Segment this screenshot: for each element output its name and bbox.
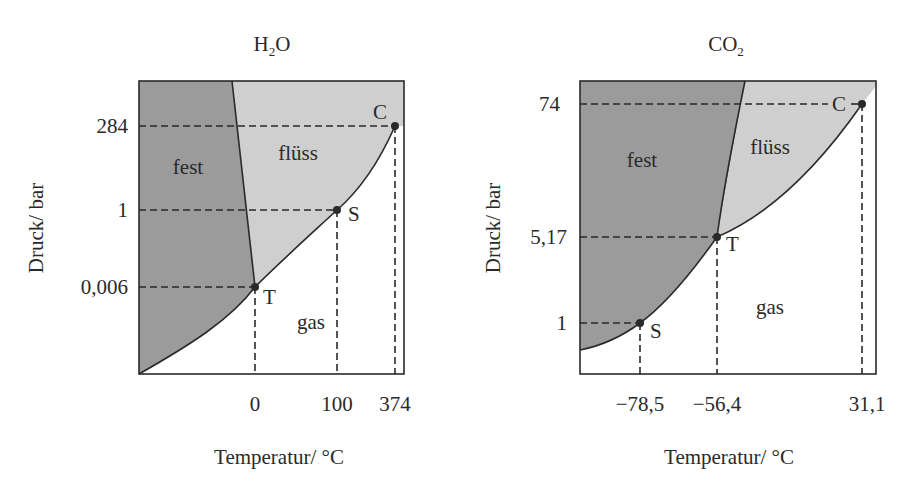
h2o-region-label-liquid: flüss — [278, 141, 318, 165]
co2-y-tick: 1 — [557, 311, 568, 335]
co2-y-tick: 74 — [539, 92, 561, 116]
h2o-point-label-t: T — [263, 285, 276, 309]
co2-point-label-t: T — [726, 232, 739, 256]
h2o-x-tick: 100 — [321, 392, 353, 416]
co2-x-tick: −56,4 — [693, 392, 742, 416]
h2o-x-tick: 0 — [250, 392, 261, 416]
co2-y-tick: 5,17 — [530, 225, 567, 249]
co2-region-label-solid: fest — [627, 148, 657, 172]
co2-x-tick: 31,1 — [849, 392, 886, 416]
h2o-critical-point-marker — [391, 122, 399, 130]
co2-critical-point-marker — [858, 100, 866, 108]
h2o-x-axis-label: Temperatur/ °C — [214, 445, 344, 469]
h2o-y-tick: 1 — [118, 198, 129, 222]
h2o-triple-point-marker — [251, 283, 259, 291]
co2-sublimation-point-marker — [636, 319, 644, 327]
h2o-title: H2O — [254, 32, 291, 59]
h2o-y-tick: 0,006 — [81, 275, 128, 299]
h2o-point-label-s: S — [348, 202, 360, 226]
h2o-region-label-solid: fest — [173, 155, 203, 179]
h2o-point-label-c: C — [373, 100, 387, 124]
co2-point-label-s: S — [650, 319, 662, 343]
phase-diagrams: H2O C S T fest flüss gas — [0, 0, 901, 484]
h2o-diagram: H2O C S T fest flüss gas — [24, 32, 411, 469]
co2-x-tick: −78,5 — [616, 392, 665, 416]
co2-title: CO2 — [708, 32, 744, 59]
h2o-x-tick: 374 — [379, 392, 411, 416]
co2-y-axis-label: Druck/ bar — [481, 183, 505, 273]
h2o-boiling-point-marker — [333, 206, 341, 214]
h2o-y-axis-label: Druck/ bar — [24, 183, 48, 273]
h2o-y-tick: 284 — [97, 114, 129, 138]
co2-region-label-gas: gas — [756, 295, 784, 319]
co2-diagram: CO2 C T S fest flü — [481, 32, 885, 469]
co2-region-label-liquid: flüss — [750, 135, 790, 159]
co2-x-axis-label: Temperatur/ °C — [664, 445, 794, 469]
co2-triple-point-marker — [713, 233, 721, 241]
co2-point-label-c: C — [832, 92, 846, 116]
h2o-region-label-gas: gas — [297, 310, 325, 334]
